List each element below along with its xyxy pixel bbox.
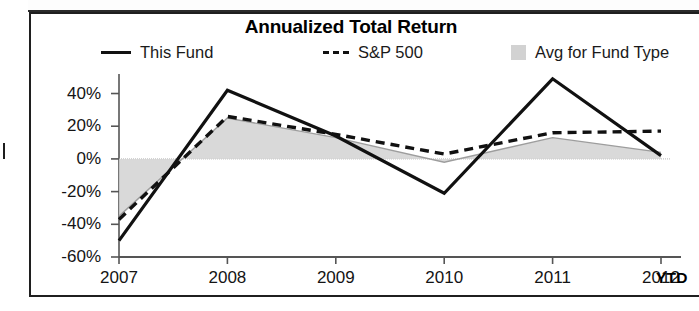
y-tick-label: 0% [39,149,101,169]
scan-margin-mark [3,143,5,159]
x-tick-label: 2011 [518,268,588,288]
x-tick-label: 2009 [301,268,371,288]
series-group [119,79,661,241]
x-axis-ytd-label: YTD [656,269,688,287]
x-tick-label: 2007 [84,268,154,288]
y-tick-label: -40% [39,214,101,234]
x-tick-label: 2008 [192,268,262,288]
y-tick-label: -20% [39,182,101,202]
plot-svg [31,14,699,299]
x-tick-label: 2010 [409,268,479,288]
scan-edge-top-bar [28,0,699,12]
y-tick-label: -60% [39,247,101,267]
y-tick-label: 40% [39,84,101,104]
plot-area: 40%20%0%-20%-40%-60% 2007200820092010201… [31,14,699,299]
chart-panel: Annualized Total Return This Fund S&P 50… [29,12,699,297]
y-tick-label: 20% [39,116,101,136]
